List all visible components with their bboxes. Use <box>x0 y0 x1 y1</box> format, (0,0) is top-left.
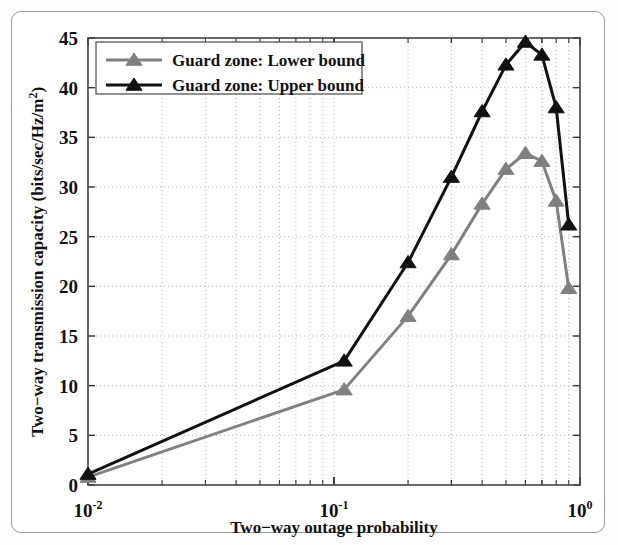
y-axis-title-main: Two−way transmission capacity (bits/sec/… <box>28 99 47 438</box>
legend[interactable]: Guard zone: Lower boundGuard zone: Upper… <box>96 42 365 95</box>
legend-item-label: Guard zone: Lower bound <box>172 51 365 70</box>
x-axis-title: Two−way outage probability <box>230 518 438 537</box>
y-axis-tick-label: 5 <box>69 425 79 446</box>
y-axis-title-close-paren: ) <box>28 87 47 93</box>
line-chart: 051015202530354045 10-210-1100 Two−way o… <box>0 0 618 545</box>
y-axis-tick-label: 0 <box>69 475 79 496</box>
y-axis-tick-label: 45 <box>59 28 78 49</box>
x-axis-tick-label: 100 <box>568 498 593 521</box>
y-axis-title: Two−way transmission capacity (bits/sec/… <box>26 87 47 437</box>
y-axis-tick-label: 10 <box>59 376 78 397</box>
y-axis-tick-labels: 051015202530354045 <box>59 28 78 496</box>
y-axis-tick-label: 35 <box>59 127 78 148</box>
x-axis-tick-label: 10-2 <box>74 498 103 521</box>
y-axis-tick-label: 15 <box>59 326 78 347</box>
figure-root: 051015202530354045 10-210-1100 Two−way o… <box>0 0 618 545</box>
legend-item-label: Guard zone: Upper bound <box>172 76 364 95</box>
y-axis-tick-label: 20 <box>59 276 78 297</box>
plot-area-background <box>88 38 580 485</box>
y-axis-tick-label: 25 <box>59 227 78 248</box>
y-axis-tick-label: 40 <box>59 78 78 99</box>
y-axis-title-group: Two−way transmission capacity (bits/sec/… <box>26 87 47 437</box>
y-axis-tick-label: 30 <box>59 177 78 198</box>
